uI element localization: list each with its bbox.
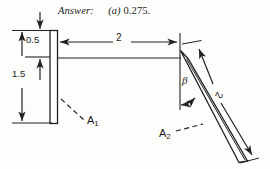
plate-label-a1: A1 — [87, 115, 99, 128]
dimension-label-1-5: 1.5 — [12, 69, 25, 79]
dimension-2-inclined — [182, 41, 259, 164]
plate-label-a1-subscript: 1 — [94, 119, 98, 128]
answer-label: Answer: — [58, 5, 94, 16]
beta-angle-arrow — [181, 98, 195, 105]
a1-leader-line — [61, 99, 84, 120]
engineering-diagram — [0, 0, 270, 169]
left-plate-a1 — [50, 31, 58, 124]
figure-canvas: Answer: (a) 0.275. 0.5 1.5 2 2 β A1 A2 — [0, 0, 270, 169]
answer-text: Answer: (a) 0.275. — [58, 6, 150, 17]
answer-value: 0.275. — [123, 5, 150, 16]
dimension-label-horizontal-2: 2 — [116, 33, 122, 43]
plate-label-a2-subscript: 2 — [166, 132, 170, 141]
a2-leader-line — [176, 124, 203, 131]
right-plate-a2 — [181, 51, 248, 163]
beta-angle-label: β — [182, 75, 187, 86]
dimension-label-0-5: 0.5 — [26, 35, 39, 45]
answer-part-letter: (a) — [108, 5, 121, 16]
plate-label-a2: A2 — [159, 128, 171, 141]
